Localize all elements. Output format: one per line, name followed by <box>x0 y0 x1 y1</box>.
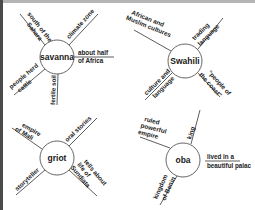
svg-text:beautiful palac: beautiful palac <box>207 162 252 170</box>
svg-text:storyteller: storyteller <box>13 166 41 193</box>
detail-swahili-upper-right: trading language <box>190 16 221 47</box>
diagram-canvas: savanna south of the Sahara climate zone… <box>0 0 255 210</box>
node-label-savanna: savanna <box>40 52 74 62</box>
web-oba: oba ruled powerful empire king lived in … <box>137 110 251 205</box>
spoke-bottom <box>57 74 58 105</box>
svg-text:oral stories: oral stories <box>63 114 93 143</box>
detail-griot-lower-left: storyteller <box>13 166 41 193</box>
svg-text:fertile soil: fertile soil <box>49 75 57 105</box>
detail-swahili-upper-left: African and Muslim cultures <box>125 7 175 38</box>
web-griot: griot empire of Mali oral stories storyt… <box>12 114 109 196</box>
node-label-swahili: Swahili <box>170 56 199 66</box>
detail-oba-lower-left: kingdom of Benin <box>152 172 177 203</box>
detail-savanna-lower-left: people herd cattle <box>8 62 45 97</box>
detail-swahili-lower-right: "people of the coast" <box>198 66 233 103</box>
detail-griot-upper-right: oral stories <box>63 114 93 143</box>
detail-savanna-upper-right: climate zone <box>65 7 96 40</box>
svg-text:of Africa: of Africa <box>78 57 104 64</box>
svg-text:climate zone: climate zone <box>65 7 96 40</box>
detail-oba-right: lived in a beautiful palac <box>207 153 252 170</box>
detail-oba-top: king <box>185 125 197 140</box>
svg-text:about half: about half <box>78 49 109 56</box>
node-label-griot: griot <box>48 153 67 163</box>
detail-savanna-bottom: fertile soil <box>49 75 57 105</box>
detail-oba-upper-left: ruled powerful empire <box>137 114 169 142</box>
detail-savanna-upper-left: south of the Sahara <box>21 10 55 47</box>
web-savanna: savanna south of the Sahara climate zone… <box>8 7 114 105</box>
web-swahili: Swahili African and Muslim cultures trad… <box>125 7 233 102</box>
svg-text:lived in a: lived in a <box>207 153 234 160</box>
detail-savanna-right: about half of Africa <box>78 49 109 64</box>
svg-text:king: king <box>185 125 197 140</box>
word-web-diagram: savanna south of the Sahara climate zone… <box>0 0 255 210</box>
node-label-oba: oba <box>175 155 190 165</box>
